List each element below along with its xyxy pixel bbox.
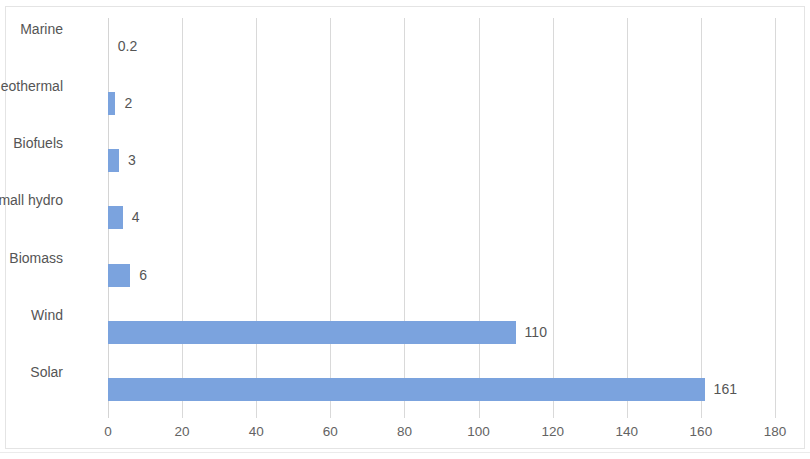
x-tick-label: 140 — [616, 424, 639, 439]
x-axis-tick-labels: 020406080100120140160180 — [108, 424, 775, 444]
plot-area: Marine0.2Geothermal2Biofuels3Small hydro… — [108, 18, 775, 418]
bar-row: Small hydro4 — [108, 189, 775, 246]
bar — [108, 206, 123, 229]
category-label: Marine — [20, 18, 63, 41]
category-label: Solar — [30, 361, 63, 384]
bar-row: Wind110 — [108, 304, 775, 361]
bar — [108, 92, 115, 115]
x-tick-label: 40 — [249, 424, 264, 439]
x-tick-label: 0 — [104, 424, 112, 439]
bar-value-label: 0.2 — [109, 35, 137, 58]
bar-value-label: 3 — [119, 149, 136, 172]
bar — [108, 149, 119, 172]
category-label: Biofuels — [13, 132, 63, 155]
bar-value-label: 161 — [705, 378, 737, 401]
x-tick-label: 160 — [690, 424, 713, 439]
category-label: Wind — [31, 304, 63, 327]
bar-row: Biomass6 — [108, 247, 775, 304]
bar — [108, 378, 705, 401]
x-tick-label: 120 — [541, 424, 564, 439]
category-label: Small hydro — [0, 189, 63, 212]
x-tick-label: 100 — [467, 424, 490, 439]
x-tick-label: 20 — [175, 424, 190, 439]
category-label: Geothermal — [0, 75, 63, 98]
gridline — [775, 18, 776, 418]
category-label: Biomass — [9, 247, 63, 270]
bar-value-label: 2 — [115, 92, 132, 115]
bar — [108, 264, 130, 287]
bar-value-label: 6 — [130, 264, 147, 287]
bar-chart: Marine0.2Geothermal2Biofuels3Small hydro… — [0, 0, 810, 459]
bar-row: Solar161 — [108, 361, 775, 418]
x-tick-label: 60 — [323, 424, 338, 439]
x-tick-label: 180 — [764, 424, 787, 439]
bar-row: Geothermal2 — [108, 75, 775, 132]
bar-row: Marine0.2 — [108, 18, 775, 75]
bar-row: Biofuels3 — [108, 132, 775, 189]
chart-bottom-border — [0, 452, 810, 453]
bar-value-label: 110 — [516, 321, 547, 344]
x-tick-label: 80 — [397, 424, 412, 439]
bar — [108, 321, 516, 344]
bar-value-label: 4 — [123, 206, 140, 229]
